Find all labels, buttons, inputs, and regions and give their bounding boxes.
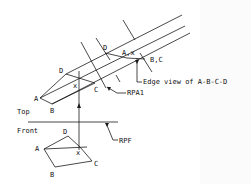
descriptive-geometry-diagram: D A,x B,C Edge view of A-B-C-D D x C A B…	[0, 0, 251, 184]
label-top-c: C	[94, 86, 98, 94]
label-front-b: B	[50, 171, 54, 179]
rpf-leader	[105, 123, 118, 140]
label-top-a: A	[34, 95, 39, 103]
label-front-x: x	[76, 149, 80, 157]
label-aux-d: D	[103, 44, 107, 52]
edge-view-annotation: Edge view of A-B-C-D	[143, 78, 227, 86]
label-front-a: A	[35, 145, 40, 153]
label-front-d: D	[63, 128, 67, 136]
front-view-plane	[44, 136, 92, 167]
top-view-plane	[40, 74, 95, 104]
label-top-x: x	[73, 82, 77, 90]
label-front-c: C	[94, 160, 98, 168]
rpa1-leader	[107, 87, 126, 93]
rpa1-annotation: RPA1	[127, 89, 144, 97]
edge-view-line	[105, 53, 145, 82]
projection-lines	[40, 15, 190, 104]
label-top-b: B	[50, 107, 54, 115]
rpf-annotation: RPF	[119, 137, 132, 145]
label-top-d: D	[59, 67, 63, 75]
top-view-label: Top	[17, 108, 30, 116]
front-view-label: Front	[17, 127, 38, 135]
label-aux-ax: A,x	[122, 49, 135, 57]
reference-lines	[81, 20, 152, 88]
label-aux-bc: B,C	[150, 56, 163, 64]
